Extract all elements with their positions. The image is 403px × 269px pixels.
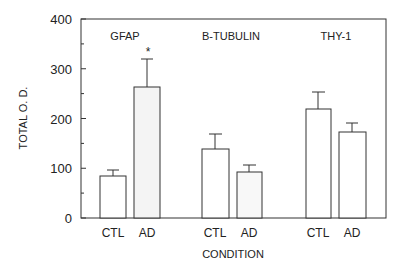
bar-chart: 0 100 200 300 400 TOTAL O. D. GFAP B-TUB… (0, 0, 403, 269)
cat-label-btubulin-ctl: CTL (204, 226, 227, 240)
y-tick-0: 0 (65, 211, 72, 226)
y-tick-300: 300 (50, 62, 72, 77)
y-axis-tick-labels: 0 100 200 300 400 (50, 12, 72, 226)
bar-thy1-ctl (306, 92, 331, 218)
bar-gfap-ad (134, 59, 160, 218)
cat-label-btubulin-ad: AD (241, 226, 258, 240)
group-labels: GFAP B-TUBULIN THY-1 (110, 30, 351, 42)
x-category-labels: CTL AD CTL AD CTL AD (102, 226, 361, 240)
bars (100, 59, 366, 218)
bar-btubulin-ad (237, 165, 262, 218)
significance-asterisk: * (146, 45, 151, 59)
y-axis-ticks (81, 19, 86, 218)
cat-label-thy1-ctl: CTL (307, 226, 330, 240)
y-tick-100: 100 (50, 161, 72, 176)
y-axis-label: TOTAL O. D. (17, 87, 29, 150)
bar-btubulin-ctl (202, 134, 229, 218)
group-label-thy-1: THY-1 (321, 30, 352, 42)
y-tick-400: 400 (50, 12, 72, 27)
group-label-gfap: GFAP (110, 30, 139, 42)
x-axis-label: CONDITION (202, 248, 264, 260)
group-label-b-tubulin: B-TUBULIN (202, 30, 260, 42)
cat-label-gfap-ad: AD (139, 226, 156, 240)
cat-label-gfap-ctl: CTL (102, 226, 125, 240)
y-tick-200: 200 (50, 112, 72, 127)
cat-label-thy1-ad: AD (344, 226, 361, 240)
bar-thy1-ad (339, 123, 366, 218)
bar-gfap-ctl (100, 170, 126, 218)
